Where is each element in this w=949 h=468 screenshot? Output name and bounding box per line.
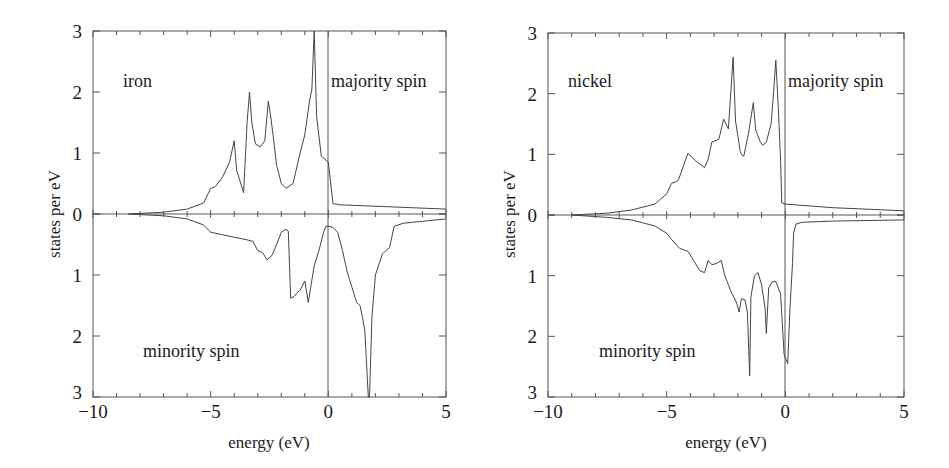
svg-text:1: 1	[528, 266, 538, 287]
nickel-dos-plot: −10−505 3210123 nickel majority spin min…	[500, 23, 909, 452]
iron-dos-plot: −10−505 3210123 iron majority spin minor…	[45, 21, 451, 452]
svg-text:5: 5	[441, 401, 451, 422]
svg-text:1: 1	[528, 144, 538, 165]
svg-text:3: 3	[528, 23, 538, 44]
svg-text:−10: −10	[78, 401, 108, 422]
material-label: nickel	[568, 71, 612, 91]
y-tick-labels: 3210123	[528, 23, 538, 403]
svg-text:2: 2	[528, 84, 538, 105]
majority-spin-label: majority spin	[788, 71, 884, 91]
y-tick-labels: 3210123	[73, 21, 83, 403]
svg-text:3: 3	[73, 382, 83, 403]
minority-spin-curve	[128, 214, 446, 397]
svg-text:1: 1	[73, 265, 83, 286]
svg-text:0: 0	[73, 204, 83, 225]
svg-text:3: 3	[528, 382, 538, 403]
svg-text:2: 2	[73, 326, 83, 347]
x-tick-labels: −10−505	[533, 401, 909, 422]
svg-text:0: 0	[781, 401, 791, 422]
svg-text:−5: −5	[201, 401, 221, 422]
svg-text:0: 0	[324, 401, 334, 422]
svg-text:0: 0	[528, 205, 538, 226]
svg-text:5: 5	[899, 401, 909, 422]
svg-text:2: 2	[528, 326, 538, 347]
x-axis-label: energy (eV)	[228, 433, 309, 452]
y-axis-label: states per eV	[500, 169, 519, 258]
y-axis-label: states per eV	[45, 169, 64, 258]
svg-text:−10: −10	[533, 401, 563, 422]
majority-spin-curve	[128, 31, 446, 214]
minority-spin-label: minority spin	[143, 341, 240, 361]
x-tick-labels: −10−505	[78, 401, 451, 422]
majority-spin-label: majority spin	[331, 71, 427, 91]
svg-text:2: 2	[73, 82, 83, 103]
svg-text:1: 1	[73, 143, 83, 164]
svg-text:3: 3	[73, 21, 83, 42]
material-label: iron	[123, 71, 152, 91]
minority-spin-label: minority spin	[599, 341, 696, 361]
x-axis-label: energy (eV)	[685, 433, 766, 452]
dos-figure: −10−505 3210123 iron majority spin minor…	[0, 0, 949, 468]
svg-text:−5: −5	[657, 401, 677, 422]
